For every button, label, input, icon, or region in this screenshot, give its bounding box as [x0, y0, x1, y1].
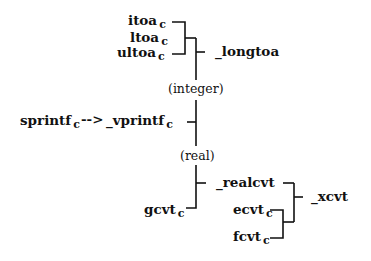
node-subscript: c — [178, 207, 185, 220]
node-subscript: c — [158, 50, 165, 63]
node-vprintf: _vprintfc — [106, 114, 173, 128]
node-name: fcvt — [233, 228, 261, 244]
node-subscript: c — [166, 118, 173, 131]
node-ltoa: ltoac — [130, 31, 168, 45]
node-sprintf: sprintfc — [20, 114, 80, 128]
realcvt-trunk — [186, 165, 196, 208]
node-subscript: c — [263, 234, 270, 247]
call-hierarchy-diagram: itoac ltoac ultoac _longtoa (integer) sp… — [0, 0, 371, 261]
node-ecvt: ecvtc — [233, 203, 273, 217]
node-ultoa: ultoac — [117, 46, 165, 60]
node-gcvt: gcvtc — [144, 203, 184, 217]
label-integer: (integer) — [168, 83, 224, 96]
node-name: _vprintf — [106, 112, 164, 128]
node-name: ecvt — [233, 201, 264, 217]
node-subscript: c — [73, 118, 80, 131]
arrow-sprintf-vprintf: --> — [81, 113, 104, 127]
node-realcvt: _realcvt — [216, 176, 275, 190]
node-name: ltoa — [130, 29, 159, 45]
connector-lines — [0, 0, 371, 261]
node-fcvt: fcvtc — [233, 230, 270, 244]
node-xcvt: _xcvt — [311, 190, 348, 204]
node-subscript: c — [266, 207, 273, 220]
node-itoa: itoac — [128, 14, 166, 28]
label-real: (real) — [180, 150, 215, 163]
node-name: gcvt — [144, 201, 176, 217]
bracket-itoa-ultoa — [172, 22, 185, 54]
node-name: itoa — [128, 12, 157, 28]
node-name: sprintf — [20, 112, 71, 128]
node-longtoa: _longtoa — [215, 45, 279, 59]
node-subscript: c — [159, 18, 166, 31]
node-name: ultoa — [117, 44, 156, 60]
